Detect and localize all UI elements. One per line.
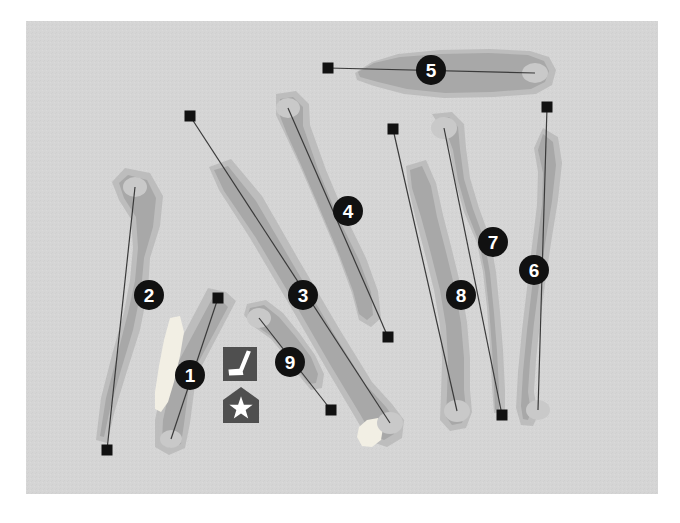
- hole-marker-7[interactable]: 7: [478, 227, 508, 257]
- golf-course-map: 123456789 Golf Course Layout Map: [0, 0, 680, 523]
- hole-number-label-3: 3: [298, 285, 309, 306]
- tee-box-hole-2[interactable]: [102, 445, 113, 456]
- hole-marker-1[interactable]: 1: [175, 360, 205, 390]
- hole-number-label-2: 2: [144, 285, 155, 306]
- tee-box-hole-5[interactable]: [323, 63, 334, 74]
- hole-marker-3[interactable]: 3: [288, 280, 318, 310]
- tee-box-hole-8[interactable]: [388, 124, 399, 135]
- tee-box-hole-4[interactable]: [383, 332, 394, 343]
- hole-marker-2[interactable]: 2: [134, 280, 164, 310]
- golf-club-icon[interactable]: [223, 347, 257, 381]
- hole-marker-9[interactable]: 9: [275, 347, 305, 377]
- tee-box-hole-1[interactable]: [213, 293, 224, 304]
- tee-box-hole-7[interactable]: [497, 410, 508, 421]
- hole-marker-4[interactable]: 4: [333, 196, 363, 226]
- tee-box-hole-9[interactable]: [326, 405, 337, 416]
- hole-number-label-9: 9: [285, 352, 296, 373]
- tee-box-hole-3[interactable]: [185, 111, 196, 122]
- hole-marker-8[interactable]: 8: [446, 280, 476, 310]
- hole-number-label-1: 1: [185, 365, 196, 386]
- hole-number-label-6: 6: [529, 260, 540, 281]
- hole-number-label-7: 7: [488, 232, 499, 253]
- tee-box-hole-6[interactable]: [542, 102, 553, 113]
- hole-number-label-8: 8: [456, 285, 467, 306]
- hole-number-label-5: 5: [426, 60, 437, 81]
- course-map-canvas: 123456789: [0, 0, 680, 523]
- hole-marker-6[interactable]: 6: [519, 255, 549, 285]
- hole-number-label-4: 4: [343, 201, 354, 222]
- hole-marker-5[interactable]: 5: [416, 55, 446, 85]
